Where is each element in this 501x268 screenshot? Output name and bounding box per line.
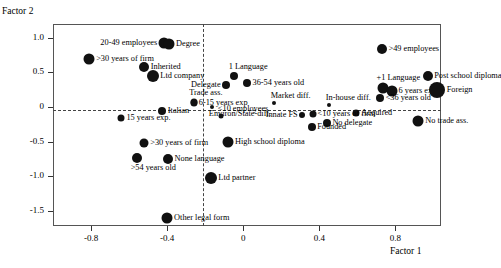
y-tick-label: -0.5 xyxy=(14,136,44,146)
data-point-label: >54 years old xyxy=(131,164,176,172)
data-point-marker xyxy=(222,81,230,89)
data-point-label: <10 years of firm xyxy=(318,110,376,118)
vertical-zero-reference-line xyxy=(203,24,204,226)
data-point-marker xyxy=(308,123,316,131)
data-point-label: None language xyxy=(175,155,225,163)
data-point-label: 20-49 employees xyxy=(100,39,157,47)
data-point-marker xyxy=(377,44,387,54)
data-point-marker xyxy=(205,172,217,184)
data-point-marker xyxy=(140,138,149,147)
y-tick-mark xyxy=(48,38,53,39)
data-point-label: Ltd company xyxy=(160,72,204,80)
data-point-marker xyxy=(230,72,238,80)
y-tick-label: 1.0 xyxy=(14,32,44,42)
data-point-marker xyxy=(162,212,173,223)
data-point-label: <36 years old xyxy=(386,94,431,102)
data-point-marker xyxy=(299,112,305,118)
data-point-marker xyxy=(272,101,276,105)
data-point-marker xyxy=(423,71,433,81)
data-point-label: Founded xyxy=(317,123,346,131)
x-tick-mark xyxy=(167,226,168,231)
data-point-label: In-house diff. xyxy=(326,94,371,102)
data-point-marker xyxy=(163,154,173,164)
data-point-marker xyxy=(147,70,159,82)
x-tick-mark xyxy=(319,226,320,231)
data-point-marker xyxy=(327,103,331,107)
data-point-marker xyxy=(164,38,175,49)
data-point-marker xyxy=(132,153,142,163)
data-point-marker xyxy=(139,62,149,72)
data-point-marker xyxy=(190,99,197,106)
data-point-label: 15 years exp. xyxy=(126,114,170,122)
data-point-marker xyxy=(376,94,384,102)
y-tick-label: -1.0 xyxy=(14,170,44,180)
data-point-label: Italian xyxy=(168,107,189,115)
data-point-label: High school diploma xyxy=(235,138,305,146)
data-point-label: Other legal form xyxy=(174,214,229,222)
y-tick-mark xyxy=(48,176,53,177)
data-point-label: Innate FS xyxy=(266,111,298,119)
x-tick-mark xyxy=(91,226,92,231)
data-point-label: 36-54 years old xyxy=(253,79,305,87)
data-point-label: Ltd partner xyxy=(218,174,255,182)
x-tick-label: 0 xyxy=(223,233,263,243)
y-tick-label: 0 xyxy=(14,101,44,111)
data-point-marker xyxy=(413,115,424,126)
x-axis-title: Factor 1 xyxy=(390,246,421,256)
data-point-marker xyxy=(118,115,125,122)
data-point-label: Trade ass. xyxy=(189,89,222,97)
data-point-marker xyxy=(84,54,95,65)
y-tick-mark xyxy=(48,107,53,108)
data-point-marker xyxy=(219,114,224,119)
y-tick-mark xyxy=(48,211,53,212)
data-point-label: <10 employees xyxy=(218,105,269,113)
x-tick-label: 0.8 xyxy=(375,233,415,243)
data-point-marker xyxy=(309,110,316,117)
data-point-label: Foreign xyxy=(447,86,473,94)
data-point-label: Market diff. xyxy=(271,92,311,100)
data-point-label: 1 Language xyxy=(229,63,268,71)
x-tick-mark xyxy=(243,226,244,231)
data-point-label: >30 years of firm xyxy=(150,139,208,147)
x-tick-label: -0.4 xyxy=(147,233,187,243)
x-tick-label: -0.8 xyxy=(71,233,111,243)
y-tick-label: 0.5 xyxy=(14,66,44,76)
data-point-label: >49 employees xyxy=(389,45,440,53)
data-point-label: +1 Language xyxy=(376,74,420,82)
data-point-label: No trade ass. xyxy=(425,117,468,125)
y-tick-label: -1.5 xyxy=(14,205,44,215)
data-point-marker xyxy=(429,82,445,98)
data-point-label: Post school diploma xyxy=(434,72,501,80)
x-tick-mark xyxy=(395,226,396,231)
x-tick-label: 0.4 xyxy=(299,233,339,243)
y-tick-mark xyxy=(48,72,53,73)
data-point-marker xyxy=(222,136,233,147)
y-axis-title: Factor 2 xyxy=(2,6,33,16)
data-point-label: Degree xyxy=(176,40,200,48)
y-tick-mark xyxy=(48,142,53,143)
data-point-marker xyxy=(243,79,251,87)
